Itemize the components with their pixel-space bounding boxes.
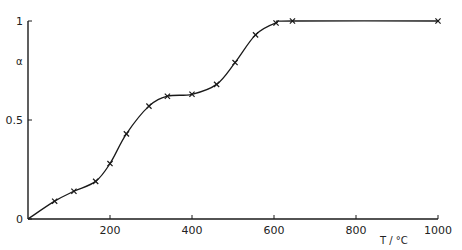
y-tick-label: 1 — [16, 15, 23, 28]
x-marker-icon — [71, 189, 76, 194]
x-tick-label: 800 — [346, 224, 367, 237]
x-marker-icon — [124, 131, 129, 136]
y-tick-label: 0.5 — [6, 114, 24, 127]
x-tick-label: 600 — [264, 224, 285, 237]
y-axis-label: α — [16, 56, 23, 67]
x-tick-label: 1000 — [424, 224, 452, 237]
data-curve — [28, 21, 438, 219]
x-tick-label: 200 — [100, 224, 121, 237]
tick-marks — [28, 21, 438, 219]
axes — [28, 21, 438, 219]
x-axis-label: T / °C — [379, 235, 408, 246]
x-marker-icon — [93, 179, 98, 184]
x-marker-icon — [253, 32, 258, 37]
x-marker-icon — [146, 104, 151, 109]
x-marker-icon — [232, 60, 237, 65]
x-tick-label: 400 — [182, 224, 203, 237]
alpha-vs-temperature-chart: α T / °C 2004006008001000 00.51 — [0, 0, 462, 250]
x-marker-icon — [107, 161, 112, 166]
x-marker-icon — [214, 82, 219, 87]
x-marker-icon — [52, 199, 57, 204]
alpha-curve — [28, 21, 438, 219]
y-tick-labels: 00.51 — [6, 15, 24, 226]
y-tick-label: 0 — [16, 213, 23, 226]
